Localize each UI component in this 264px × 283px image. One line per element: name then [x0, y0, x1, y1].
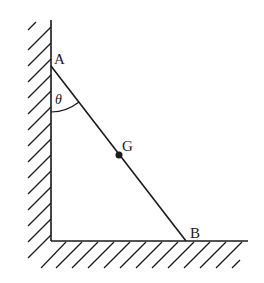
label-g: G — [122, 138, 133, 154]
label-b: B — [190, 225, 200, 241]
wall-hatching — [28, 22, 51, 258]
label-a: A — [54, 51, 65, 67]
label-theta: θ — [55, 92, 62, 107]
floor-hatching — [41, 242, 242, 268]
ladder-diagram: A θ G B — [0, 0, 264, 283]
